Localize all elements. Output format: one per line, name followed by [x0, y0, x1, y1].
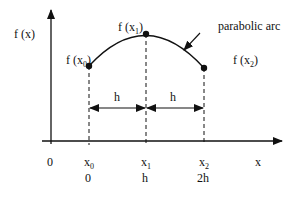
x-tick-x1: x1 [141, 155, 151, 171]
point-x2 [201, 65, 207, 71]
annotation-label: parabolic arc [218, 19, 280, 33]
x-tick-x2: x2 [199, 155, 209, 171]
interval-h1-label: h [114, 90, 120, 104]
x-tick-x0: x0 [84, 155, 94, 171]
point-label-x2: f (x2) [233, 53, 258, 69]
diagram-canvas: f (x) x 0 parabolic arc f (x0) f (x1) f … [0, 0, 299, 197]
point-label-x1: f (x1) [118, 20, 143, 36]
y-axis-label: f (x) [14, 27, 35, 41]
x-value-0: 0 [85, 171, 91, 185]
x-value-h: h [142, 171, 148, 185]
annotation-arrow [184, 33, 200, 50]
x-value-2h: 2h [197, 171, 209, 185]
point-label-x0: f (x0) [66, 53, 91, 69]
x-axis-label: x [255, 155, 261, 169]
point-x1 [143, 31, 149, 37]
origin-label: 0 [47, 155, 53, 169]
interval-h2-label: h [170, 90, 176, 104]
parabolic-arc-diagram: f (x) x 0 parabolic arc f (x0) f (x1) f … [0, 0, 299, 197]
